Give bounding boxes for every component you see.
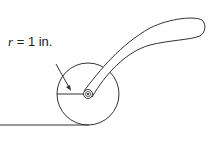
hub-center bbox=[87, 93, 89, 95]
arrow-head-icon bbox=[66, 85, 71, 91]
handle bbox=[84, 18, 205, 97]
radius-value: = 1 in. bbox=[13, 34, 52, 49]
radius-label: r = 1 in. bbox=[8, 34, 52, 50]
pizza-cutter-diagram: r = 1 in. bbox=[0, 0, 214, 141]
diagram-drawing bbox=[0, 0, 214, 141]
